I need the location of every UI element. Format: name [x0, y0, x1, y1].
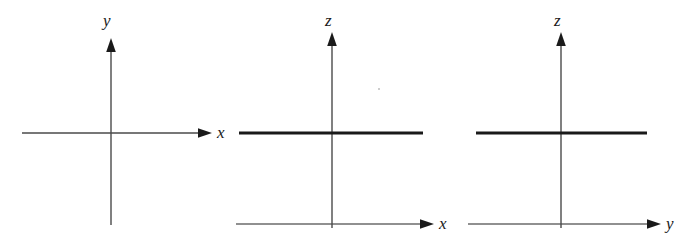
x-axis-arrowhead: [420, 219, 434, 229]
y-axis-label: y: [666, 215, 674, 232]
panel-yz: z y: [455, 0, 685, 247]
z-axis-label: z: [325, 12, 332, 29]
x-axis-label: x: [217, 124, 225, 141]
x-axis-arrowhead: [198, 128, 212, 138]
scan-speck: [378, 88, 380, 90]
y-axis-arrowhead: [647, 219, 661, 229]
z-axis-label: z: [554, 12, 561, 29]
panel-yz-drawing: [455, 0, 685, 247]
y-axis-label: y: [103, 12, 111, 29]
panel-xy-drawing: [0, 0, 230, 247]
z-axis-arrowhead: [556, 32, 566, 46]
figure-canvas: y x z x z y: [0, 0, 685, 247]
panel-xz-drawing: [230, 0, 455, 247]
panel-xy: y x: [0, 0, 230, 247]
y-axis-arrowhead: [106, 38, 116, 52]
z-axis-arrowhead: [327, 32, 337, 46]
panel-xz: z x: [230, 0, 455, 247]
x-axis-label: x: [439, 215, 447, 232]
